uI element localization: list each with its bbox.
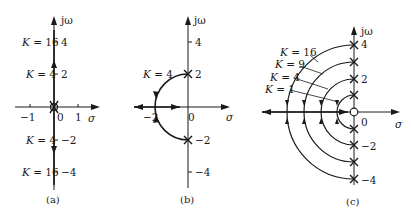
real-axis-label-c: σ (395, 118, 403, 130)
locus-arrow-left-icon (262, 109, 271, 115)
zero-marker-icon (350, 108, 358, 116)
panel-c: jω σ 0 4 2 −2 −4 (262, 25, 403, 207)
caption-b: (b) (180, 194, 194, 205)
leader-line (290, 90, 339, 102)
imag-tick-label: −4 (195, 166, 211, 178)
imag-tick-label: −2 (361, 140, 376, 152)
locus-arrow-left-icon (134, 104, 143, 110)
gain-label: K = 4 (269, 71, 300, 83)
gain-label: K = 4 (142, 68, 173, 80)
imag-axis-label-c: jω (359, 25, 373, 37)
imag-tick-label: −4 (61, 166, 77, 178)
gain-label: K = 1 (264, 83, 295, 95)
caption-c: (c) (346, 196, 360, 207)
leader-line (300, 66, 323, 74)
gain-label: K = 16 (21, 36, 59, 48)
locus-arrow-icon (153, 91, 159, 99)
imag-tick-label: 4 (195, 36, 202, 48)
real-tick-label: −1 (20, 111, 35, 123)
imag-tick-label: −2 (195, 134, 210, 146)
gain-label: K = 4 (25, 134, 56, 146)
real-axis-arrow-icon (91, 104, 100, 110)
imag-tick-label: 4 (61, 36, 68, 48)
imag-tick-label: −2 (61, 134, 76, 146)
panel-b: jω σ −2 0 4 2 −2 −4 K = 4 (b) (134, 14, 234, 205)
real-axis-arrow-icon (221, 104, 230, 110)
imag-axis-label-a: jω (59, 14, 73, 26)
gain-label: K = 16 (21, 166, 59, 178)
imag-axis-arrow-icon (351, 26, 357, 35)
panel-a: jω σ −1 0 1 4 2 −2 −4 K = 16 K = 4 K = 4… (15, 14, 100, 205)
locus-arrow-down-icon (51, 146, 57, 154)
imag-tick-label: 4 (361, 38, 368, 50)
locus-arrow-right-icon (339, 109, 348, 115)
imag-tick-label: 2 (195, 68, 202, 80)
gain-label: K = 4 (25, 68, 56, 80)
imag-tick-label: 2 (61, 68, 68, 80)
gain-label: K = 9 (274, 58, 305, 70)
real-tick-label: 0 (188, 111, 195, 123)
imag-tick-label: −4 (361, 174, 377, 186)
real-axis-label-b: σ (226, 111, 234, 123)
real-axis-arrow-icon (391, 109, 400, 115)
locus-arrow-right-icon (171, 104, 180, 110)
arc-arrow-icon (285, 118, 289, 124)
arc-arrow-icon (302, 100, 306, 106)
imag-axis-label-b: jω (192, 14, 206, 26)
caption-a: (a) (46, 194, 60, 205)
real-axis-label-a: σ (88, 112, 96, 124)
imag-axis-arrow-icon (51, 16, 57, 25)
locus-arrow-up-icon (51, 60, 57, 68)
arc-arrow-icon (285, 100, 289, 106)
imag-axis-arrow-icon (185, 16, 191, 25)
real-tick-label: 0 (361, 116, 368, 128)
imag-tick-label: 2 (361, 73, 368, 85)
real-tick-label: 1 (75, 111, 82, 123)
arc-arrow-icon (302, 118, 306, 124)
